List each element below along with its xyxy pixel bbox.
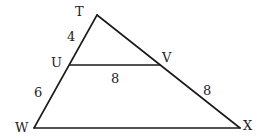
vertex-label-v: V (161, 50, 172, 65)
length-label-uw: 6 (34, 85, 42, 100)
triangle-diagram: T U V W X 4 6 8 8 (0, 0, 262, 140)
side-tw (34, 15, 97, 128)
length-label-vx: 8 (203, 83, 211, 98)
vertex-label-t: T (75, 4, 84, 19)
vertex-label-u: U (51, 55, 62, 70)
vertex-label-x: X (243, 118, 253, 133)
vertex-label-w: W (15, 120, 29, 135)
length-label-tu: 4 (67, 29, 75, 44)
length-label-uv: 8 (111, 71, 119, 86)
